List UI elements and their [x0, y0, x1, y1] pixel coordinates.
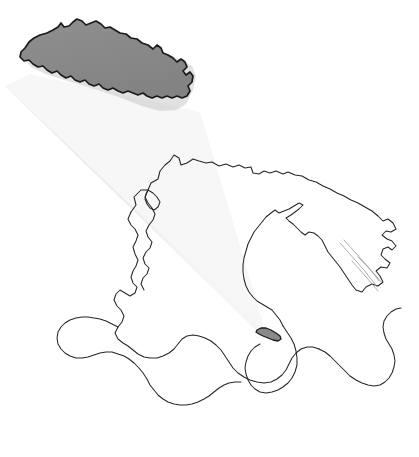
river-line-3 — [352, 261, 378, 291]
arabian-peninsula — [57, 317, 241, 405]
river-line-1 — [340, 243, 377, 287]
map-canvas — [0, 0, 419, 457]
nepal-actual-shape[interactable] — [256, 328, 281, 341]
river-line-4 — [358, 257, 379, 281]
locator-map-figure: Nepal locator map with magnified inset O… — [0, 0, 419, 457]
bay-of-bengal-coast — [319, 308, 401, 386]
highlight-actual-group[interactable] — [256, 328, 281, 341]
river-network — [340, 240, 383, 291]
